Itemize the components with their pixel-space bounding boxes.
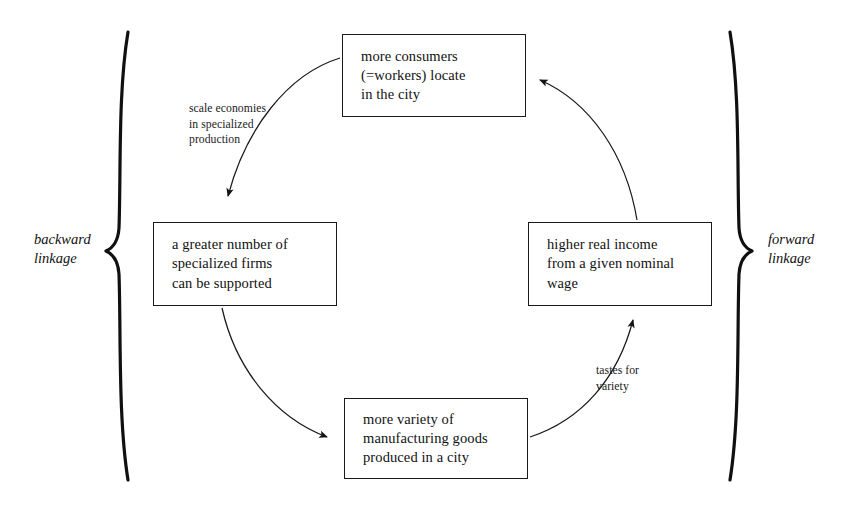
node-text-more-consumers: more consumers (=workers) locate in the … bbox=[361, 47, 465, 104]
brace-label-forward-linkage: forward linkage bbox=[768, 230, 814, 268]
node-box-more-variety[interactable]: more variety of manufacturing goods prod… bbox=[344, 398, 528, 479]
node-text-more-variety: more variety of manufacturing goods prod… bbox=[363, 410, 488, 467]
node-box-more-consumers[interactable]: more consumers (=workers) locate in the … bbox=[342, 34, 526, 117]
node-text-specialized-firms: a greater number of specialized firms ca… bbox=[172, 235, 288, 292]
arrow-left-to-bottom bbox=[222, 308, 327, 437]
brace-label-backward-linkage: backward linkage bbox=[34, 230, 91, 268]
backward-linkage-brace bbox=[106, 32, 128, 480]
node-box-specialized-firms[interactable]: a greater number of specialized firms ca… bbox=[153, 222, 337, 306]
node-box-higher-real-income[interactable]: higher real income from a given nominal … bbox=[528, 222, 712, 306]
arrow-label-tastes-for-variety: tastes for variety bbox=[596, 363, 639, 394]
node-text-higher-real-income: higher real income from a given nominal … bbox=[547, 235, 674, 292]
diagram-canvas: more consumers (=workers) locate in the … bbox=[0, 0, 853, 515]
arrow-right-to-top bbox=[540, 80, 637, 220]
arrow-label-scale-economies: scale economies in specialized productio… bbox=[189, 101, 266, 148]
forward-linkage-brace bbox=[730, 32, 752, 480]
